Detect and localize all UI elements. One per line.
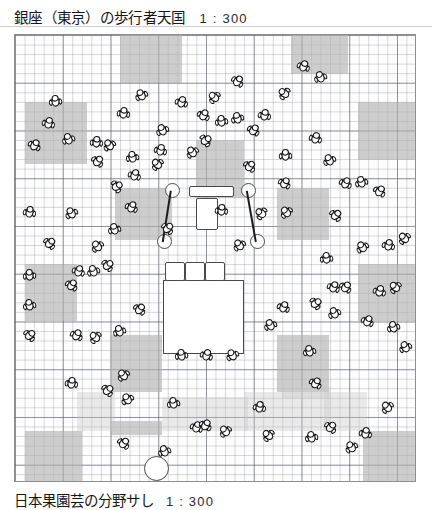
pedestrian-figure: [112, 432, 133, 453]
pedestrian-figure: [66, 325, 86, 345]
pedestrian-figure: [105, 220, 123, 238]
pedestrian-figure: [228, 109, 247, 128]
pedestrian-figure: [302, 428, 320, 446]
pedestrian-figure: [20, 203, 37, 220]
pedestrian-figure: [86, 235, 107, 256]
pedestrian-figure: [172, 346, 189, 363]
figure-caption-scale: 1 : 300: [166, 494, 214, 509]
pedestrian-figure: [255, 106, 273, 124]
pedestrian-figure: [305, 293, 326, 314]
pedestrian-figure: [273, 297, 293, 317]
pedestrian-figure: [251, 203, 272, 224]
pedestrian-figure: [18, 324, 39, 345]
block-bottom-left: [25, 431, 82, 482]
block-center-lower: [110, 335, 162, 392]
figure-caption-text: 日本果園芸の分野サし: [14, 489, 154, 510]
block-bottom-center-a: [110, 421, 162, 435]
bench-left: [165, 262, 185, 281]
pedestrian-figure: [193, 105, 213, 125]
pedestrian-figure: [128, 298, 149, 319]
pedestrian-figure: [21, 267, 37, 283]
barrier-post-nw: [165, 183, 180, 198]
plan-map: [14, 34, 416, 482]
pedestrian-figure: [61, 203, 81, 223]
pedestrian-figure: [306, 129, 325, 148]
pedestrian-figure: [213, 202, 229, 218]
figure-caption: 日本果園芸の分野サし 1 : 300: [14, 489, 214, 510]
pedestrian-figure: [47, 93, 64, 110]
band-top-right-light: [282, 387, 330, 399]
main-stage-building: [163, 280, 244, 354]
pedestrian-figure: [203, 86, 224, 107]
pedestrian-figure: [172, 93, 191, 112]
pedestrian-figure: [277, 147, 293, 163]
plaza-manhole: [144, 456, 169, 481]
block-right-upper: [358, 102, 415, 160]
barrier-post-se: [250, 234, 265, 249]
pedestrian-figure: [260, 315, 280, 335]
pedestrian-figure: [229, 235, 250, 256]
pedestrian-figure: [131, 85, 151, 105]
pedestrian-figure: [38, 232, 59, 253]
pedestrian-figure: [318, 250, 334, 266]
pedestrian-figure: [152, 120, 172, 140]
stage-canopy-bar: [189, 186, 234, 197]
block-top-left-a: [120, 35, 182, 83]
pedestrian-figure: [164, 394, 182, 412]
pedestrian-figure: [369, 181, 390, 202]
pedestrian-figure: [86, 150, 107, 171]
page-title-scale: 1 : 300: [200, 11, 248, 26]
pedestrian-figure: [273, 82, 294, 103]
pedestrian-figure: [335, 173, 355, 193]
bench-right: [205, 262, 225, 281]
pedestrian-figure: [84, 326, 105, 347]
pedestrian-figure: [213, 113, 230, 130]
pedestrian-figure: [356, 424, 374, 442]
pedestrian-figure: [250, 398, 268, 416]
pedestrian-figure: [20, 296, 38, 314]
pedestrian-figure: [123, 148, 140, 165]
bench-center: [185, 262, 205, 281]
pedestrian-figure: [39, 114, 57, 132]
pedestrian-figure: [319, 150, 339, 170]
header-divider: [0, 26, 432, 27]
pedestrian-figure: [124, 165, 143, 184]
pedestrian-figure: [352, 237, 373, 258]
pedestrian-figure: [324, 303, 344, 323]
pedestrian-figure: [395, 337, 415, 357]
pedestrian-figure: [226, 70, 247, 91]
pedestrian-figure: [300, 342, 318, 360]
pedestrian-figure: [115, 105, 132, 122]
pedestrian-figure: [376, 396, 397, 417]
block-left-upper: [25, 102, 87, 164]
pedestrian-figure: [62, 374, 79, 391]
page-title: 銀座（東京）の歩行者天国 1 : 300: [14, 6, 248, 27]
pedestrian-figure: [352, 173, 371, 192]
pedestrian-figure: [393, 227, 414, 248]
page-title-text: 銀座（東京）の歩行者天国: [14, 6, 186, 27]
